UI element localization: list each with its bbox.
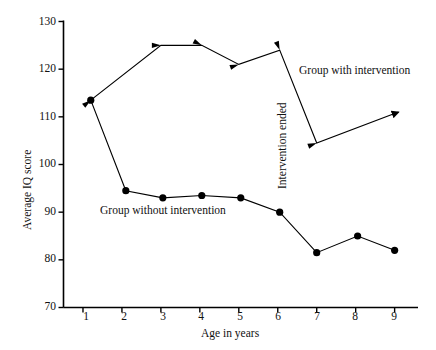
series-group-with-intervention (82, 39, 398, 149)
annotation-group-without-intervention: Group without intervention (100, 205, 226, 217)
data-point (391, 247, 398, 254)
y-tick-label-80: 80 (30, 253, 56, 265)
x-tick-label-5: 5 (231, 311, 249, 323)
x-tick-label-7: 7 (308, 311, 326, 323)
x-tick-label-3: 3 (154, 311, 172, 323)
x-tick-label-2: 2 (115, 311, 133, 323)
data-point (122, 187, 129, 194)
x-tick-label-9: 9 (385, 311, 403, 323)
data-point (229, 62, 239, 70)
series-group-without-intervention (87, 97, 398, 257)
chart-plot-area (0, 0, 436, 350)
data-point (159, 194, 166, 201)
data-point (152, 43, 161, 48)
y-axis-title: Average IQ score (22, 150, 34, 230)
data-point (313, 249, 320, 256)
data-point (193, 39, 203, 48)
y-tick-label-90: 90 (30, 206, 56, 218)
x-tick-label-4: 4 (192, 311, 210, 323)
x-tick-label-6: 6 (269, 311, 287, 323)
y-tick-label-120: 120 (30, 63, 56, 75)
y-tick-label-70: 70 (30, 301, 56, 313)
y-tick-label-100: 100 (30, 158, 56, 170)
x-tick-label-8: 8 (346, 311, 364, 323)
data-point (237, 194, 244, 201)
data-point (354, 232, 361, 239)
y-tick-label-130: 130 (30, 16, 56, 28)
annotation-intervention-ended: Intervention ended (277, 102, 289, 189)
x-axis-title: Age in years (201, 328, 259, 340)
data-point (274, 41, 282, 51)
data-point (198, 192, 205, 199)
annotation-group-with-intervention: Group with intervention (299, 65, 410, 77)
data-point (276, 209, 283, 216)
y-tick-label-110: 110 (30, 111, 56, 123)
iq-score-line-chart: 130 120 110 100 90 80 70 1 2 3 4 5 6 7 8… (0, 0, 436, 350)
data-point (87, 97, 94, 104)
x-tick-label-1: 1 (77, 311, 95, 323)
